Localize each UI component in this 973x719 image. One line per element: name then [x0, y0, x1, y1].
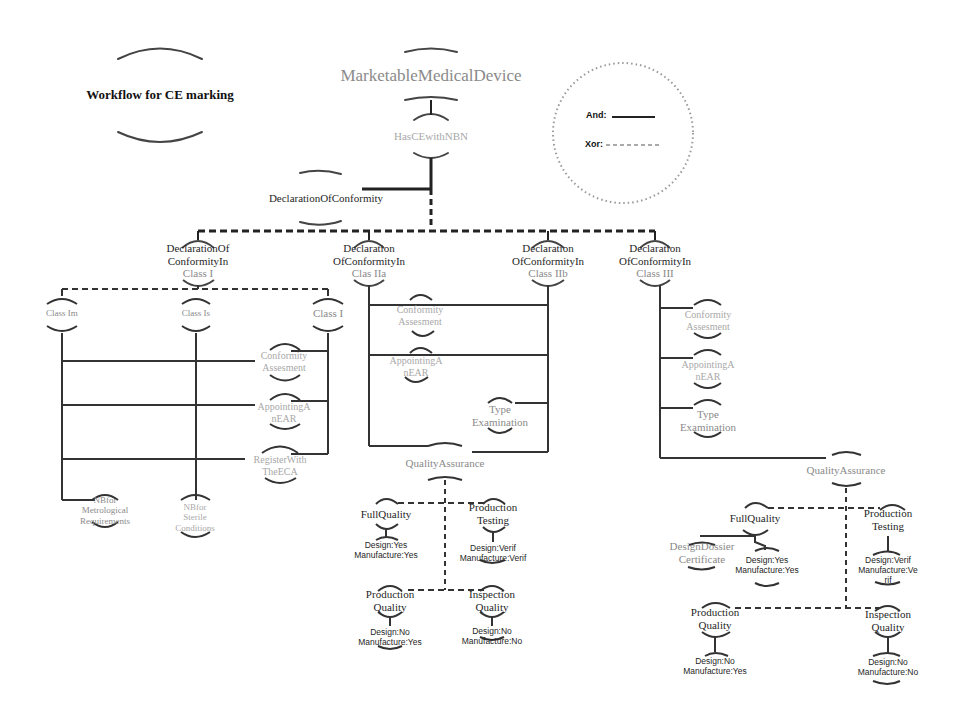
node-doc-class-iia: Declaration OfConformityIn Clas IIa [333, 242, 405, 280]
title-arc-top [118, 49, 202, 60]
node-qa-right-inspection-quality: Inspection Quality [865, 608, 911, 633]
title-arc-bottom [118, 132, 202, 142]
node-class-i-appointing-an-ear: AppointingA nEAR [254, 401, 314, 424]
node-marketable-medical-device: MarketableMedicalDevice [340, 66, 521, 86]
node-qa-right-full-quality-values: Design:Yes Manufacture:Yes [735, 556, 798, 576]
node-qa-left-full-quality-values: Design:Yes Manufacture:Yes [354, 541, 417, 561]
legend-and-label: And: [586, 110, 607, 120]
node-qa-left-inspection-quality-values: Design:No Manufacture:No [462, 627, 522, 647]
node-qa-left-inspection-quality: Inspection Quality [469, 588, 515, 613]
node-qa-left-production-testing: Production Testing [469, 501, 517, 526]
node-class-i-conformity-assesment: Conformity Assesment [254, 350, 314, 373]
node-qa-right-production-quality: Production Quality [691, 606, 739, 631]
node-iib-type-examination: Type Examination [465, 403, 535, 428]
node-iii-appointing-an-ear: AppointingA nEAR [676, 359, 740, 382]
node-iii-type-examination: Type Examination [673, 408, 743, 433]
node-nb-metrological: NBfor Metrological Requirements [80, 495, 130, 526]
node-class-im: Class Im [46, 308, 78, 318]
node-qa-left-full-quality: FullQuality [361, 508, 412, 521]
node-doc-class-iib: Declaration OfConformityIn Class IIb [512, 242, 584, 280]
node-qa-right-inspection-quality-values: Design:No Manufacture:No [858, 658, 918, 678]
node-qa-left-production-testing-values: Design:Verif Manufacture:Verif [460, 544, 527, 564]
legend-circle [553, 63, 693, 203]
node-iii-conformity-assesment: Conformity Assesment [676, 309, 740, 332]
node-class-i: Class I [313, 307, 343, 320]
node-qa-right-production-quality-values: Design:No Manufacture:Yes [683, 657, 746, 677]
node-qa-right: QualityAssurance [807, 464, 886, 477]
node-doc-class-iii: Declaration OfConformityIn Class III [619, 242, 691, 280]
node-iia-conformity-assesment: Conformity Assesment [385, 304, 455, 327]
node-doc-class-i: DeclarationOf ConformityIn Class I [167, 242, 230, 280]
node-has-ce-with-nbn: HasCEwithNBN [394, 130, 468, 143]
diagram-title: Workflow for CE marking [86, 88, 233, 103]
node-qa-right-design-dossier: DesignDossier Certificate [670, 540, 735, 565]
node-qa-right-full-quality: FullQuality [730, 512, 781, 525]
legend-xor-label: Xor: [585, 139, 603, 149]
node-class-i-register-with-the-eca: RegisterWith TheECA [248, 454, 312, 477]
node-class-is: Class Is [182, 308, 210, 318]
node-qa-left-production-quality: Production Quality [366, 588, 414, 613]
node-declaration-of-conformity: DeclarationOfConformity [269, 192, 383, 205]
node-qa-right-production-testing: Production Testing [864, 507, 912, 532]
node-qa-left-production-quality-values: Design:No Manufacture:Yes [358, 628, 421, 648]
node-iia-appointing-an-ear: AppointingA nEAR [384, 355, 448, 378]
node-qa-right-production-testing-values: Design:Verif Manufacture:Ve rif [858, 556, 918, 585]
node-qa-left: QualityAssurance [406, 457, 485, 470]
node-nb-sterile: NBfor Sterile Conditions [175, 502, 215, 533]
